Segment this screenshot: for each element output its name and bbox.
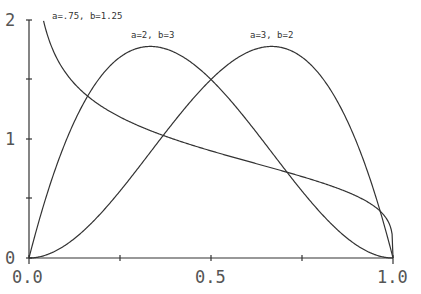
- curve-label-a2-b3: a=2, b=3: [131, 30, 174, 40]
- chart-svg: 2 1 0 0.0 0.5 1.0 a=.75, b=1.25 a=2, b=3…: [0, 0, 421, 294]
- curve-label-a075-b125: a=.75, b=1.25: [52, 11, 122, 21]
- y-tick-label-2: 2: [5, 10, 15, 30]
- curve-a-75-b-1-25: [44, 21, 393, 258]
- beta-density-chart: 2 1 0 0.0 0.5 1.0 a=.75, b=1.25 a=2, b=3…: [0, 0, 421, 294]
- y-tick-label-0: 0: [5, 248, 15, 268]
- x-tick-label-0: 0.0: [12, 267, 43, 287]
- y-tick-label-1: 1: [5, 129, 15, 149]
- curve-a-2-b-3: [29, 46, 393, 258]
- curve-label-a3-b2: a=3, b=2: [250, 30, 293, 40]
- curve-a-3-b-2: [29, 46, 393, 258]
- x-tick-label-05: 0.5: [195, 267, 226, 287]
- axes: [26, 20, 393, 264]
- curves: [29, 21, 393, 258]
- x-tick-label-1: 1.0: [377, 267, 408, 287]
